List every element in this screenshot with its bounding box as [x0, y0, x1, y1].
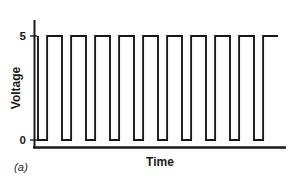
square-wave-trace [38, 36, 278, 140]
figure-caption: (a) [14, 161, 28, 173]
y-tick-label-5: 5 [20, 30, 27, 42]
y-axis-title: Voltage [9, 66, 23, 109]
y-tick-label-0: 0 [20, 134, 26, 146]
figure-container: 5 0 Voltage Time (a) [0, 0, 297, 182]
x-axis-title: Time [146, 155, 174, 169]
voltage-vs-time-chart: 5 0 Voltage Time [0, 0, 297, 182]
